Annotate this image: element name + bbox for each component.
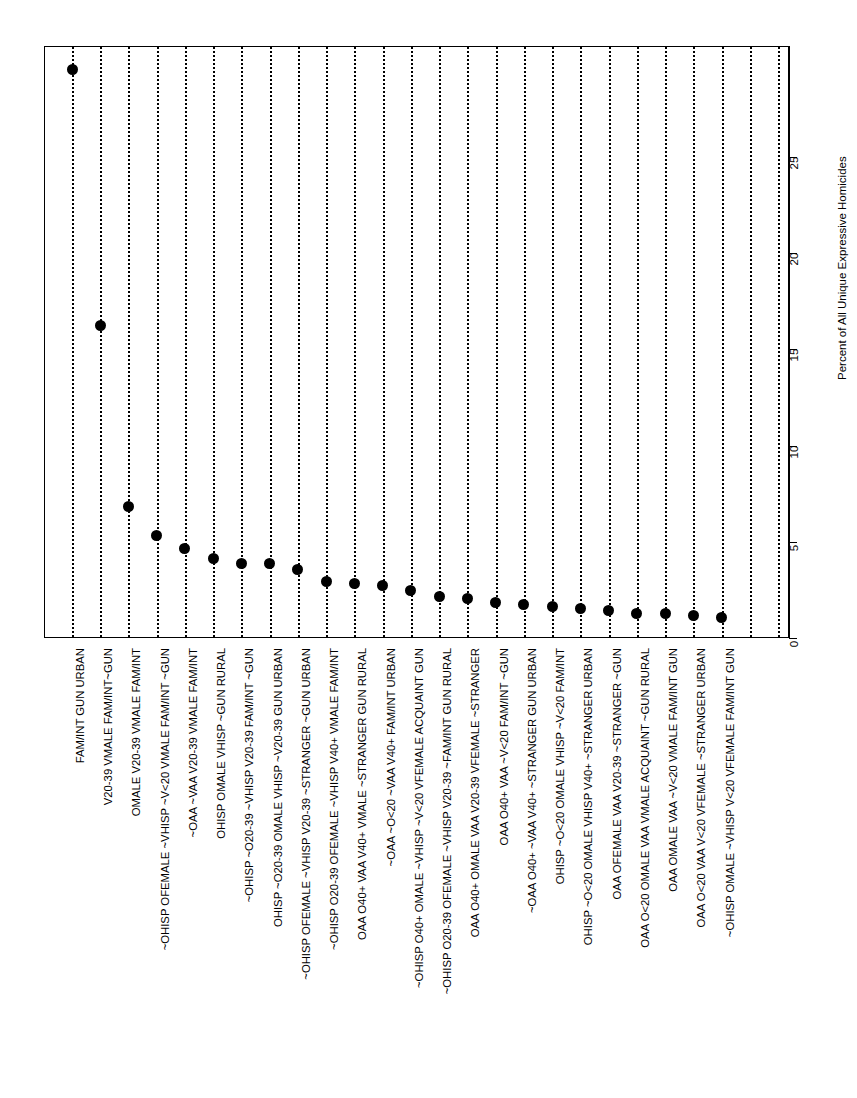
data-point <box>603 605 614 616</box>
category-label: ~OHISP O20-39 OFEMALE ~VHISP V40+ VMALE … <box>329 648 340 950</box>
category-label: OAA O40+ OMALE VAA V20-39 VFEMALE ~STRAN… <box>470 648 481 937</box>
stem-line <box>496 47 498 637</box>
category-label: OAA O<20 VAA V<20 VFEMALE ~STRANGER URBA… <box>696 648 707 928</box>
data-point <box>688 610 699 621</box>
stem-line <box>411 47 413 637</box>
stem-line <box>213 47 215 637</box>
stem-line <box>552 47 554 637</box>
category-label: ~OHISP OFEMALE ~VHISP V20-39 ~STRANGER ~… <box>301 648 312 980</box>
stem-line <box>326 47 328 637</box>
stem-line <box>100 47 102 637</box>
category-label: OHISP OMALE VHISP ~GUN RURAL <box>216 648 227 839</box>
category-label: ~OHISP O20-39 OFEMALE ~VHISP V20-39 ~FAM… <box>442 648 453 994</box>
data-point <box>264 558 275 569</box>
stem-line <box>665 47 667 637</box>
plot-area <box>45 47 788 637</box>
category-label: OAA O40+ VAA V40+ VMALE ~STRANGER GUN RU… <box>357 648 368 940</box>
category-label: OAA OMALE VAA ~V<20 VMALE FAM/INT GUN <box>668 648 679 892</box>
stem-line <box>580 47 582 637</box>
category-label: ~OHISP ~O20-39 ~VHISP V20-39 FAM/INT ~GU… <box>244 648 255 902</box>
data-point <box>349 578 360 589</box>
stem-line <box>128 47 130 637</box>
category-label: OHISP ~O20-39 OMALE VHISP ~V20-39 GUN UR… <box>273 648 284 927</box>
data-point <box>151 530 162 541</box>
data-point <box>660 608 671 619</box>
category-label: FAM/INT GUN URBAN <box>75 648 86 763</box>
data-point <box>518 599 529 610</box>
stem-line <box>722 47 724 637</box>
stem-line <box>241 47 243 637</box>
stem-line <box>778 47 780 637</box>
data-point <box>179 543 190 554</box>
value-axis-tick-label: 10 <box>788 445 800 458</box>
data-point <box>716 612 727 623</box>
data-point <box>631 608 642 619</box>
data-point <box>490 597 501 608</box>
data-point <box>462 593 473 604</box>
stem-line <box>637 47 639 637</box>
data-point <box>123 501 134 512</box>
value-axis-title: Percent of All Unique Expressive Homicid… <box>836 156 848 380</box>
stem-line <box>609 47 611 637</box>
stem-line <box>439 47 441 637</box>
stem-line <box>693 47 695 637</box>
stem-line <box>750 47 752 637</box>
value-axis-tick <box>789 638 797 639</box>
category-label: V20-39 VMALE FAM/INT~GUN <box>103 648 114 805</box>
value-axis-tick-label: 0 <box>788 641 800 647</box>
data-point <box>208 553 219 564</box>
category-label: ~OAA ~VAA V20-39 VMALE FAM/INT <box>188 648 199 837</box>
data-point <box>67 64 78 75</box>
stem-line <box>354 47 356 637</box>
stem-line <box>298 47 300 637</box>
value-axis-tick-label: 20 <box>788 253 800 266</box>
category-label: OAA O<20 OMALE VAA VMALE ACQUAINT ~GUN R… <box>640 648 651 948</box>
value-axis-tick <box>789 542 797 543</box>
data-point <box>292 564 303 575</box>
data-point <box>321 576 332 587</box>
category-label: OMALE V20-39 VMALE FAM/INT <box>131 648 142 816</box>
category-label: ~OAA O40+ ~VAA V40+ ~STRANGER GUN URBAN <box>527 648 538 913</box>
data-point <box>377 580 388 591</box>
value-axis-tick-label: 15 <box>788 349 800 362</box>
stem-line <box>467 47 469 637</box>
stem-line <box>524 47 526 637</box>
category-label: ~OHISP OFEMALE ~VHISP ~V<20 VMALE FAM/IN… <box>160 648 171 950</box>
stem-line <box>383 47 385 637</box>
value-axis-tick-label: 5 <box>788 545 800 551</box>
data-point <box>95 320 106 331</box>
stem-line <box>157 47 159 637</box>
data-point <box>236 558 247 569</box>
category-label: OHISP ~O<20 OMALE VHISP ~V<20 FAM/INT <box>555 648 566 884</box>
category-label: OHISP ~O<20 OMALE VHISP V40+ ~STRANGER U… <box>583 648 594 945</box>
category-label: ~OHISP OMALE ~VHISP V<20 VFEMALE FAM/INT… <box>725 648 736 937</box>
category-label: ~OAA ~O<20 ~VAA V40+ FAM/INT URBAN <box>386 648 397 866</box>
data-point <box>434 591 445 602</box>
value-axis-tick-label: 25 <box>788 157 800 170</box>
category-label: OAA O40+ VAA ~V<20 FAM/INT ~GUN <box>499 648 510 845</box>
data-point <box>575 603 586 614</box>
category-label: OAA OFEMALE VAA V20-39 ~STRANGER ~GUN <box>612 648 623 900</box>
category-label: ~OHISP O40+ OMALE ~VHISP ~V<20 VFEMALE A… <box>414 648 425 988</box>
stem-line <box>270 47 272 637</box>
data-point <box>405 585 416 596</box>
plot-panel <box>44 46 789 638</box>
stem-line <box>72 47 74 637</box>
data-point <box>547 601 558 612</box>
dot-plot-figure: 0510152025 Percent of All Unique Express… <box>0 0 857 1098</box>
